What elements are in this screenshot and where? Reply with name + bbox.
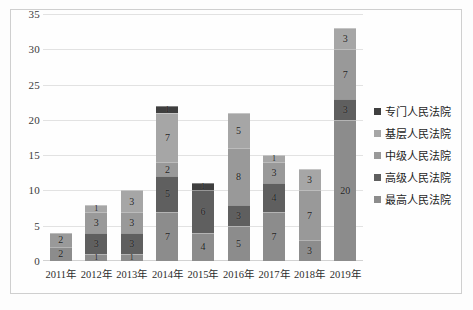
bar-segment-value: 7 [165, 232, 170, 242]
stacked-bar-chart-figure: 35302520151050 2213311333752714615385743… [0, 0, 473, 310]
bar-segment[interactable]: 20 [334, 120, 356, 261]
legend-item[interactable]: 中级人民法院 [374, 144, 466, 166]
legend-swatch-icon [374, 196, 381, 203]
bar-segment[interactable]: 1 [192, 183, 214, 190]
bar-group[interactable]: 1333 [114, 14, 150, 261]
bar-segment[interactable]: 7 [334, 49, 356, 98]
bar-segment[interactable]: 3 [334, 28, 356, 49]
bar-segment-value: 3 [129, 197, 134, 207]
bar-segment-value: 1 [201, 183, 205, 191]
x-axis: 2011年2012年2013年2014年2015年2016年2017年2018年… [43, 266, 363, 281]
bar-segment-value: 2 [58, 235, 63, 245]
bar-group[interactable]: 20373 [327, 14, 363, 261]
legend-item-label: 基层人民法院 [385, 125, 452, 141]
bar-segment[interactable]: 3 [121, 233, 143, 254]
x-tick-label: 2016年 [221, 266, 257, 281]
bar-segment-value: 1 [165, 106, 169, 114]
legend-item[interactable]: 基层人民法院 [374, 122, 466, 144]
bar-stack: 20373 [334, 28, 356, 261]
bar-segment[interactable]: 1 [156, 106, 178, 113]
bar-segment-value: 1 [130, 254, 134, 262]
bar-segment[interactable]: 3 [299, 240, 321, 261]
bar-segment-value: 7 [307, 211, 312, 221]
bar-segment[interactable]: 5 [228, 113, 250, 148]
bar-segment-value: 1 [272, 155, 276, 163]
bar-segment-value: 5 [165, 189, 170, 199]
bars-layer: 2213311333752714615385743137320373 [43, 14, 363, 261]
bar-segment[interactable]: 5 [228, 226, 250, 261]
bar-stack: 373 [299, 169, 321, 261]
x-tick-label: 2015年 [185, 266, 221, 281]
bar-stack: 1333 [121, 190, 143, 261]
bar-segment-value: 3 [129, 218, 134, 228]
y-tick-label: 35 [29, 8, 40, 20]
bar-segment[interactable]: 3 [85, 212, 107, 233]
y-tick-label: 30 [29, 43, 40, 55]
plot-area: 2213311333752714615385743137320373 [43, 14, 363, 261]
legend-item[interactable]: 高级人民法院 [374, 166, 466, 188]
bar-group[interactable]: 22 [43, 14, 79, 261]
x-tick-label: 2017年 [256, 266, 292, 281]
x-tick-label: 2014年 [150, 266, 186, 281]
bar-segment-value: 20 [340, 186, 350, 196]
bar-group[interactable]: 461 [185, 14, 221, 261]
legend-swatch-icon [374, 174, 381, 181]
bar-segment[interactable]: 2 [50, 233, 72, 247]
bar-segment[interactable]: 1 [85, 205, 107, 212]
bar-segment-value: 3 [236, 211, 241, 221]
legend-item[interactable]: 最高人民法院 [374, 188, 466, 210]
bar-segment[interactable]: 4 [263, 183, 285, 211]
x-tick-label: 2013年 [114, 266, 150, 281]
bar-segment-value: 1 [94, 205, 98, 213]
bar-stack: 7431 [263, 155, 285, 261]
bar-segment-value: 3 [343, 105, 348, 115]
x-tick-label: 2019年 [327, 266, 363, 281]
bar-segment[interactable]: 2 [50, 247, 72, 261]
legend-item-label: 高级人民法院 [385, 169, 452, 185]
bar-group[interactable]: 373 [292, 14, 328, 261]
bar-segment[interactable]: 2 [156, 162, 178, 176]
bar-segment[interactable]: 7 [156, 212, 178, 261]
bar-segment[interactable]: 3 [85, 233, 107, 254]
bar-segment-value: 3 [307, 246, 312, 256]
bar-group[interactable]: 5385 [221, 14, 257, 261]
bar-segment[interactable]: 1 [263, 155, 285, 162]
bar-segment[interactable]: 7 [299, 190, 321, 239]
legend-swatch-icon [374, 108, 381, 115]
bar-segment-value: 3 [94, 239, 99, 249]
bar-stack: 75271 [156, 106, 178, 261]
bar-stack: 461 [192, 183, 214, 261]
bar-segment-value: 6 [200, 207, 205, 217]
bar-segment-value: 3 [343, 34, 348, 44]
bar-segment[interactable]: 3 [263, 162, 285, 183]
legend-item-label: 最高人民法院 [385, 191, 452, 207]
bar-group[interactable]: 75271 [150, 14, 186, 261]
legend-swatch-icon [374, 152, 381, 159]
bar-segment[interactable]: 7 [263, 212, 285, 261]
bar-segment[interactable]: 5 [156, 176, 178, 211]
bar-segment[interactable]: 3 [299, 169, 321, 190]
bar-segment[interactable]: 3 [228, 205, 250, 226]
y-axis: 35302520151050 [12, 14, 40, 261]
y-tick-label: 0 [34, 255, 40, 267]
bar-segment[interactable]: 8 [228, 148, 250, 204]
bar-segment[interactable]: 1 [85, 254, 107, 261]
legend-item-label: 中级人民法院 [385, 147, 452, 163]
bar-segment-value: 5 [236, 126, 241, 136]
bar-segment-value: 8 [236, 172, 241, 182]
bar-stack: 5385 [228, 113, 250, 261]
bar-segment[interactable]: 3 [121, 212, 143, 233]
bar-segment[interactable]: 3 [121, 190, 143, 211]
bar-segment[interactable]: 7 [156, 113, 178, 162]
bar-segment[interactable]: 6 [192, 190, 214, 232]
x-tick-label: 2011年 [43, 266, 79, 281]
y-tick-label: 25 [29, 79, 40, 91]
bar-segment[interactable]: 4 [192, 233, 214, 261]
bar-group[interactable]: 7431 [256, 14, 292, 261]
bar-group[interactable]: 1331 [79, 14, 115, 261]
bar-segment[interactable]: 3 [334, 99, 356, 120]
bar-stack: 1331 [85, 205, 107, 261]
bar-segment-value: 3 [129, 239, 134, 249]
bar-segment[interactable]: 1 [121, 254, 143, 261]
legend-item[interactable]: 专门人民法院 [374, 100, 466, 122]
